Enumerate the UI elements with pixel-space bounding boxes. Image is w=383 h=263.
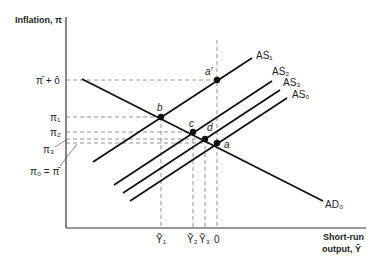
x-tick-zero: 0	[214, 234, 220, 245]
y-tick-pibar-plus-o: π̄ + ō	[36, 75, 60, 86]
pi3-leader	[55, 140, 66, 147]
point-d	[202, 136, 208, 142]
x-axis-label-line1: Short-run	[323, 232, 364, 242]
as3-label: AS₃	[283, 77, 300, 88]
as-ad-diagram: a′ b c d a AS₁ AS₂ AS₃ AS₀ AD₀ Inflation…	[0, 0, 383, 263]
point-b	[158, 114, 164, 120]
as0-label: AS₀	[292, 89, 310, 100]
point-a-prime	[214, 77, 220, 83]
pi0-leader	[60, 144, 77, 166]
y-tick-pi1: π₁	[50, 112, 61, 123]
as1-label: AS₁	[256, 50, 273, 61]
ad0-label: AD₀	[325, 199, 343, 210]
as3-curve	[123, 90, 280, 193]
point-label-a-prime: a′	[205, 66, 214, 77]
x-tick-y1: Ỹ₁	[156, 233, 167, 245]
point-c	[190, 129, 196, 135]
point-label-b: b	[157, 102, 163, 113]
as0-curve	[130, 98, 287, 201]
point-label-d: d	[207, 122, 213, 133]
x-tick-y2: Ỹ₂	[187, 233, 198, 245]
x-axis-label-line2: output, Ỹ	[322, 244, 361, 254]
y-axis-label: Inflation, π	[15, 15, 62, 25]
point-label-c: c	[189, 118, 194, 129]
y-tick-pi0: π₀ = π̄	[30, 166, 61, 177]
point-a	[214, 140, 220, 146]
as2-label: AS₂	[272, 66, 289, 77]
point-label-a: a	[224, 139, 230, 150]
x-tick-y3: Ỹ₃	[199, 233, 210, 245]
y-tick-pi2: π₂	[50, 127, 61, 138]
y-tick-pi3: π₃	[43, 144, 54, 155]
